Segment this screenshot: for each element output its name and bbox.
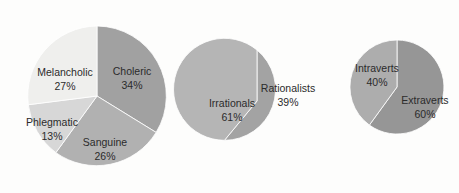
pie-label-irrationals: Irrationals xyxy=(209,97,255,109)
pie-value-extraverts: 60% xyxy=(414,108,435,120)
pie-value-sanguine: 26% xyxy=(94,150,115,162)
pie-value-melancholic: 27% xyxy=(54,80,75,92)
pie-label-phlegmatic: Phlegmatic xyxy=(26,116,78,128)
pie-label-rationalists: Rationalists xyxy=(261,82,315,94)
pie-value-intraverts: 40% xyxy=(366,76,387,88)
pie-value-choleric: 34% xyxy=(121,79,142,91)
pie-label-extraverts: Extraverts xyxy=(401,94,448,106)
pie-value-irrationals: 61% xyxy=(221,111,242,123)
pie-label-melancholic: Melancholic xyxy=(37,66,92,78)
pie-value-rationalists: 39% xyxy=(277,96,298,108)
rationality-pie: Rationalists 39% Irrationals 61% xyxy=(174,38,316,140)
pie-label-choleric: Choleric xyxy=(113,65,152,77)
pie-value-phlegmatic: 13% xyxy=(41,130,62,142)
pie-label-sanguine: Sanguine xyxy=(83,136,128,148)
introversion-pie: Extraverts 60% Intraverts 40% xyxy=(350,40,449,134)
pie-label-intraverts: Intraverts xyxy=(355,62,399,74)
temperaments-pie: Choleric 34% Sanguine 26% Phlegmatic 13%… xyxy=(26,26,166,166)
pie-chart-figure: Choleric 34% Sanguine 26% Phlegmatic 13%… xyxy=(0,0,459,193)
